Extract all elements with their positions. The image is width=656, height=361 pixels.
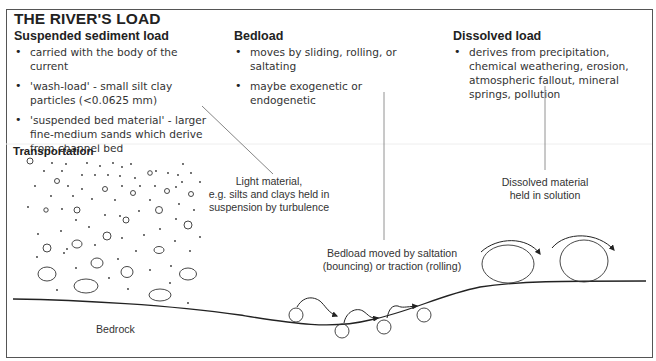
light-material-line-1: Light material,: [204, 175, 334, 188]
rolling-arrows: [481, 236, 614, 254]
bedload-moved-label: Bedload moved by saltation (bouncing) or…: [312, 247, 472, 273]
dissolved-material-label: Dissolved material held in solution: [490, 176, 600, 202]
light-material-line-2: e.g. silts and clays held in: [204, 188, 334, 201]
dissolved-material-line-1: Dissolved material: [490, 176, 600, 189]
light-material-label: Light material, e.g. silts and clays hel…: [204, 175, 334, 214]
leader-line-suspended: [202, 106, 273, 174]
bedload-moved-line-2: (bouncing) or traction (rolling): [312, 260, 472, 273]
traction-boulders: [482, 240, 608, 283]
dissolved-material-line-2: held in solution: [490, 189, 600, 202]
transportation-label: Transportation: [13, 145, 94, 157]
light-material-line-3: suspension by turbulence: [204, 201, 334, 214]
bedload-moved-line-1: Bedload moved by saltation: [312, 247, 472, 260]
bedload-particles: [289, 308, 431, 338]
suspended-particles: [27, 158, 197, 301]
bedrock-label: Bedrock: [96, 323, 135, 336]
saltation-arrows: [297, 298, 417, 323]
suspended-dots: [27, 162, 201, 304]
riverbed-line: [13, 281, 646, 325]
